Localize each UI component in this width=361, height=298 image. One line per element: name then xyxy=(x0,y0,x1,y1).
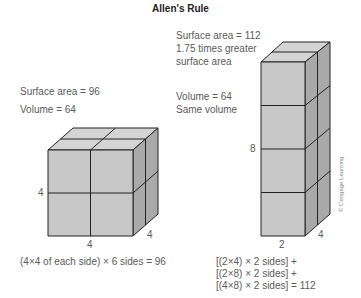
copyright-credit: © Cengage Learning xyxy=(338,157,344,212)
cube-4x4x4 xyxy=(48,128,158,236)
prism-height-label: 8 xyxy=(250,143,256,155)
prism-formula-line2: [(2×8) × 2 sides] + xyxy=(216,268,297,280)
prism-2x4x8 xyxy=(261,42,330,236)
prism-depth-label: 4 xyxy=(318,229,324,241)
prism-formula-line3: [(4×8) × 2 sides] = 112 xyxy=(216,280,316,292)
shapes-layer xyxy=(0,0,361,298)
cube-depth-label: 4 xyxy=(147,229,153,241)
cube-formula: (4×4 of each side) × 6 sides = 96 xyxy=(20,256,166,268)
cube-height-label: 4 xyxy=(38,187,44,199)
prism-formula-line1: [(2×4) × 2 sides] + xyxy=(216,256,297,268)
cube-width-label: 4 xyxy=(87,239,93,251)
prism-width-label: 2 xyxy=(279,239,285,251)
